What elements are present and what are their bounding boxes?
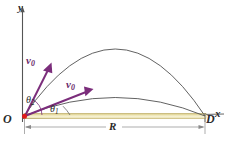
angle-theta-2-label: θ2	[26, 95, 35, 107]
origin-marker-dot	[22, 114, 27, 119]
origin-label: O	[3, 113, 12, 125]
dimension-arrowhead-left	[25, 125, 31, 129]
dimension-arrowhead-right	[199, 125, 205, 129]
x-axis-label: x	[215, 108, 221, 119]
velocity-steep-subscript: 0	[31, 59, 35, 68]
theta-2-subscript: 2	[31, 99, 35, 107]
projectile-motion-figure: y x O D v0 v0 θ2 θ1 R	[0, 0, 231, 145]
velocity-vector-steep-arrowhead	[43, 63, 52, 74]
velocity-shallow-subscript: 0	[71, 83, 75, 92]
theta-1-subscript: 1	[55, 108, 59, 116]
velocity-vector-shallow-label: v0	[66, 79, 75, 92]
velocity-vector-steep-label: v0	[26, 55, 35, 68]
angle-theta-1-label: θ1	[50, 104, 59, 116]
y-axis-label: y	[18, 2, 23, 13]
landing-point-label: D	[206, 113, 215, 125]
range-dimension-label: R	[109, 121, 116, 132]
velocity-vector-shallow-arrowhead	[84, 86, 94, 96]
